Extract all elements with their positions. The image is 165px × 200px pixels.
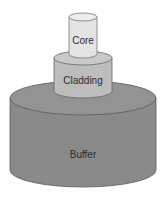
fiber-layers-diagram: Buffer Cladding Core — [0, 0, 165, 200]
buffer-label: Buffer — [70, 149, 97, 160]
cladding-label: Cladding — [63, 75, 102, 86]
core-label: Core — [72, 35, 94, 46]
core-layer: Core — [69, 13, 97, 58]
